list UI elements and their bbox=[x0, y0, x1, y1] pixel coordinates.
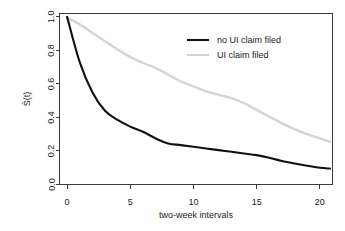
x-tick-label: 15 bbox=[252, 197, 262, 207]
x-tick-label: 5 bbox=[128, 197, 133, 207]
x-tick-label: 10 bbox=[188, 197, 198, 207]
x-tick-label: 0 bbox=[65, 197, 70, 207]
y-tick-label: 0.6 bbox=[47, 78, 57, 91]
plot-area: 0.00.20.40.60.81.005101520two-week inter… bbox=[0, 0, 345, 231]
y-axis-title: Ŝ(t) bbox=[22, 92, 32, 107]
legend-entry-label: UI claim filed bbox=[217, 50, 269, 60]
y-tick-label: 0.4 bbox=[47, 111, 57, 124]
survival-curve-figure: 0.00.20.40.60.81.005101520two-week inter… bbox=[0, 0, 345, 231]
series-line bbox=[67, 18, 330, 142]
legend-entry-label: no UI claim filed bbox=[217, 35, 281, 45]
x-axis-title: two-week intervals bbox=[159, 210, 234, 220]
y-tick-label: 0.8 bbox=[47, 44, 57, 57]
chart-legend: no UI claim filedUI claim filed bbox=[187, 35, 281, 60]
y-tick-label: 1.0 bbox=[47, 11, 57, 24]
y-tick-label: 0.0 bbox=[47, 178, 57, 191]
x-tick-label: 20 bbox=[315, 197, 325, 207]
y-tick-label: 0.2 bbox=[47, 145, 57, 158]
